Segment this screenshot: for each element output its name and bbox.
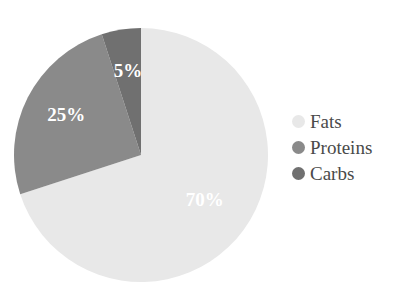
legend-swatch-icon (292, 115, 305, 128)
pie-chart: 70%25%5% FatsProteinsCarbs (0, 0, 398, 302)
pie-slice-label: 5% (114, 60, 143, 81)
legend-item[interactable]: Fats (292, 108, 398, 134)
legend-item[interactable]: Proteins (292, 134, 398, 160)
legend-item[interactable]: Carbs (292, 160, 398, 186)
pie-slice-label: 25% (47, 104, 85, 125)
legend-item-label: Carbs (310, 164, 354, 183)
pie-slice-label: 70% (186, 189, 224, 210)
legend-item-label: Fats (310, 112, 342, 131)
legend-swatch-icon (292, 167, 305, 180)
chart-legend: FatsProteinsCarbs (292, 108, 398, 186)
legend-item-label: Proteins (310, 138, 372, 157)
legend-swatch-icon (292, 141, 305, 154)
